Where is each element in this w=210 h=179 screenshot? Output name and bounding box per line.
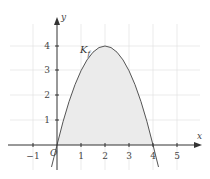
y-tick-label: 3 <box>44 65 50 75</box>
x-tick-label: 5 <box>174 151 180 161</box>
x-tick-label: −1 <box>26 151 39 161</box>
y-tick-label: 4 <box>44 41 50 51</box>
y-tick-label: 2 <box>44 90 50 100</box>
origin-label: O <box>50 148 58 158</box>
x-tick-label: 2 <box>102 151 108 161</box>
x-tick-label: 1 <box>78 151 84 161</box>
x-tick-label: 3 <box>126 151 132 161</box>
x-axis-label: x <box>197 131 202 141</box>
function-graph: −1 1 2 3 4 5 1 2 3 4 O x y Kf <box>0 0 210 179</box>
x-tick-label: 4 <box>150 151 156 161</box>
y-tick-label: 1 <box>44 115 50 125</box>
y-axis-label: y <box>60 12 67 22</box>
